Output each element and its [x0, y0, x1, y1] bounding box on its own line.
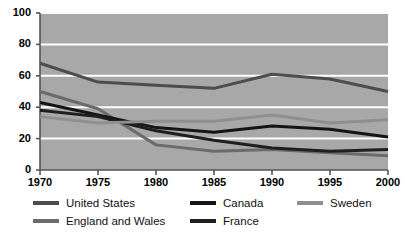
legend-swatch-icon [190, 201, 216, 205]
legend-label: Canada [223, 197, 263, 209]
y-tick-label: 40 [5, 101, 31, 112]
legend-swatch-icon [33, 201, 59, 205]
legend-label: Sweden [330, 197, 372, 209]
chart-legend: United StatesCanadaSwedenEngland and Wal… [0, 192, 397, 234]
legend-label: United States [66, 197, 135, 209]
x-tick-label: 2000 [368, 177, 405, 188]
legend-swatch-icon [190, 219, 216, 223]
plot-background [40, 13, 388, 170]
x-tick-label: 1970 [20, 177, 60, 188]
x-tick-label: 1985 [194, 177, 234, 188]
y-tick-label: 80 [5, 38, 31, 49]
legend-item[interactable]: United States [33, 194, 135, 212]
legend-label: England and Wales [66, 215, 165, 227]
x-tick-label: 1995 [310, 177, 350, 188]
x-tick-label: 1975 [78, 177, 118, 188]
legend-item[interactable]: Canada [190, 194, 263, 212]
legend-item[interactable]: Sweden [297, 194, 372, 212]
legend-swatch-icon [297, 201, 323, 205]
x-tick-label: 1990 [252, 177, 292, 188]
y-tick-label: 60 [5, 70, 31, 81]
legend-item[interactable]: France [190, 212, 259, 230]
y-tick-label: 0 [5, 164, 31, 175]
x-tick-label: 1980 [136, 177, 176, 188]
y-tick-label: 20 [5, 133, 31, 144]
legend-swatch-icon [33, 219, 59, 223]
legend-item[interactable]: England and Wales [33, 212, 165, 230]
legend-label: France [223, 215, 259, 227]
y-tick-label: 100 [5, 7, 31, 18]
